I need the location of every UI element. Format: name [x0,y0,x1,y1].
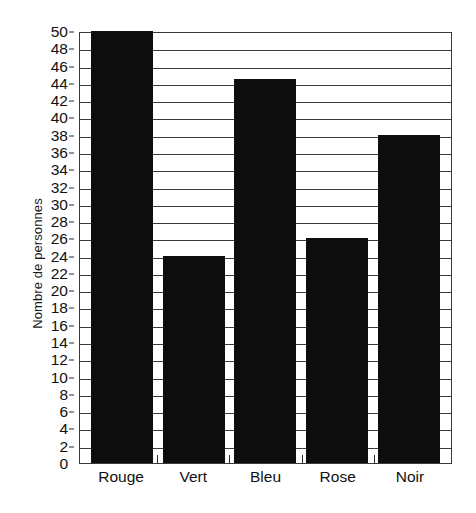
x-axis-tick-label: Rose [302,468,374,486]
y-axis-tick-label: 14 [51,335,68,351]
bar-noir[interactable] [378,135,440,463]
y-axis-tick-mark [69,343,74,344]
y-axis-tick-mark [69,446,74,447]
bar-slot [86,33,158,463]
y-axis-tick-label-group: 2468101214161820222426283032343638404244… [28,32,74,464]
y-axis-tick-mark [69,325,74,326]
y-axis-tick-mark [69,429,74,430]
bar-group [80,33,451,463]
x-axis-tick-mark [302,455,303,464]
y-axis-tick-label: 8 [59,387,68,403]
plot-area [79,32,452,464]
y-axis-tick-label: 22 [51,266,68,282]
y-axis-tick-label: 46 [51,59,68,75]
y-axis-tick-label: 36 [51,145,68,161]
y-axis-tick-mark [69,170,74,171]
y-axis-tick-label: 6 [59,404,68,420]
y-axis-tick-label: 42 [51,93,68,109]
x-axis-tick-label: Noir [374,468,446,486]
y-axis-tick-label: 26 [51,232,68,248]
bar-rose[interactable] [306,238,368,463]
y-axis-tick-mark [69,394,74,395]
bar-slot [158,33,230,463]
y-axis-tick-mark [69,204,74,205]
bar-bleu[interactable] [234,79,296,463]
y-axis-tick-mark [69,135,74,136]
y-axis-tick-label: 2 [59,439,68,455]
y-axis-tick-mark [69,412,74,413]
y-axis-tick-mark [69,291,74,292]
y-axis-tick-mark [69,222,74,223]
y-axis-tick-mark [69,360,74,361]
y-axis-tick-label: 32 [51,180,68,196]
bar-slot [373,33,445,463]
x-axis-tick-mark [374,455,375,464]
y-axis-tick-mark [69,118,74,119]
x-axis-tick-label-group: RougeVertBleuRoseNoir [79,468,452,486]
bar-slot [230,33,302,463]
y-axis-tick-mark [69,152,74,153]
y-axis-tick-mark [69,239,74,240]
bar-rouge[interactable] [91,31,153,463]
y-axis-tick-label-zero: 0 [28,455,74,473]
y-axis-tick-label: 24 [51,249,68,265]
y-axis-tick-mark [69,83,74,84]
x-axis-tick-mark [157,455,158,464]
y-axis-tick-mark [69,256,74,257]
bar-chart-figure: Nombre de personnes 24681012141618202224… [0,0,476,513]
y-axis-tick-label: 48 [51,42,68,58]
x-axis-tick-label: Bleu [229,468,301,486]
y-axis-tick-label: 16 [51,318,68,334]
x-axis-tick-mark [229,455,230,464]
y-axis-tick-mark [69,187,74,188]
y-axis-tick-label: 10 [51,370,68,386]
x-axis-tick-label: Rouge [85,468,157,486]
y-axis-tick-label: 34 [51,162,68,178]
y-axis-tick-mark [69,66,74,67]
y-axis-tick-mark [69,377,74,378]
y-axis-tick-mark [69,32,74,33]
y-axis-tick-label: 38 [51,128,68,144]
x-axis-tick-label: Vert [157,468,229,486]
y-axis-tick-label: 4 [59,422,68,438]
y-axis-tick-label: 30 [51,197,68,213]
y-axis-tick-mark [69,308,74,309]
y-axis-tick-label: 18 [51,301,68,317]
y-axis-tick-label: 40 [51,111,68,127]
y-axis-tick-label: 28 [51,214,68,230]
y-axis-tick-label: 20 [51,283,68,299]
bar-slot [301,33,373,463]
y-axis-tick-mark [69,49,74,50]
y-axis-tick-mark [69,101,74,102]
y-axis-tick-mark [69,273,74,274]
bar-vert[interactable] [163,256,225,463]
y-axis-tick-label: 44 [51,76,68,92]
y-axis-tick-label: 50 [51,24,68,40]
y-axis-tick-label: 12 [51,353,68,369]
